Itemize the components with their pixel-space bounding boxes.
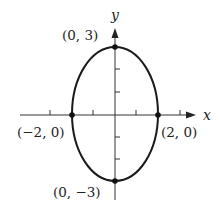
y-ticks — [115, 69, 120, 159]
y-axis: y — [110, 7, 120, 200]
point-bottom — [112, 178, 118, 184]
label-right: (2, 0) — [161, 124, 197, 140]
y-axis-label: y — [110, 7, 120, 23]
y-axis-arrow-icon — [112, 28, 119, 38]
x-axis-label: x — [203, 107, 211, 123]
ellipse-diagram: x y (0, 3) (0, −3) (−2, 0) (2, 0) — [0, 0, 221, 218]
point-right — [155, 112, 161, 118]
point-left — [69, 112, 75, 118]
x-axis-arrow-icon — [186, 112, 196, 119]
label-bottom: (0, −3) — [53, 184, 101, 200]
label-top: (0, 3) — [62, 27, 98, 43]
point-top — [112, 44, 118, 50]
label-left: (−2, 0) — [17, 124, 65, 140]
